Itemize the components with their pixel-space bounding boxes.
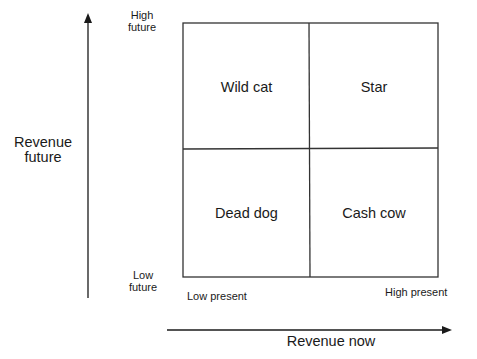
- x-low-label: Low present: [187, 291, 247, 303]
- quadrant-wild-cat: Wild cat: [184, 24, 309, 149]
- quadrant-cash-cow: Cash cow: [310, 149, 438, 277]
- x-axis-title: Revenue now: [266, 334, 396, 349]
- x-axis-arrowhead: [442, 326, 452, 334]
- y-axis-title: Revenue future: [8, 135, 78, 165]
- x-high-label: High present: [385, 287, 447, 299]
- quadrant-star: Star: [310, 24, 438, 149]
- y-axis-arrowhead: [84, 13, 92, 23]
- quadrant-dead-dog: Dead dog: [184, 149, 309, 277]
- y-low-label: Low future: [118, 270, 168, 293]
- y-high-label: High future: [112, 10, 172, 33]
